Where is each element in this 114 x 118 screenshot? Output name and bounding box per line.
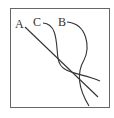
label-b: B [58,15,66,29]
label-c: C [33,15,41,29]
curve-b [67,22,89,106]
label-a: A [15,17,24,31]
curve-a [25,27,98,97]
diagram: A C B [0,0,114,118]
